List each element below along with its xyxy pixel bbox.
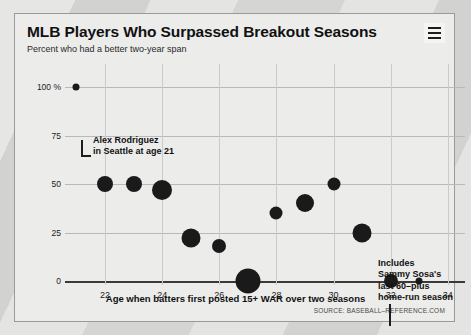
y-axis-tick-label: 50 [1, 179, 61, 189]
data-point[interactable] [181, 229, 200, 248]
page-title: MLB Players Who Surpassed Breakout Seaso… [27, 23, 442, 40]
y-axis-tick-label: 75 [1, 131, 61, 141]
scatter-chart: 0255075100 %22242628303234 Age when batt… [15, 64, 456, 323]
chart-card: MLB Players Who Surpassed Breakout Seaso… [14, 13, 455, 322]
annotation-alex-rodriguez: Alex Rodriguez in Seattle at age 21 [93, 135, 174, 158]
annotation-sammy-sosa: Includes Sammy Sosa's last 60–plus home-… [378, 258, 453, 303]
data-point[interactable] [97, 176, 113, 192]
menu-bar-1 [428, 27, 441, 30]
data-point[interactable] [235, 269, 260, 294]
data-point[interactable] [126, 176, 142, 192]
source-note: SOURCE: BASEBALL–REFERENCE.COM [314, 307, 445, 314]
annotation-leader-alex-horizontal [81, 155, 91, 157]
y-axis-tick-label: 100 % [1, 82, 61, 92]
data-point[interactable] [327, 178, 340, 191]
gridline-x-28 [276, 64, 277, 285]
y-axis-tick-label: 25 [1, 228, 61, 238]
gridline-x-30 [334, 64, 335, 285]
card-header: MLB Players Who Surpassed Breakout Seaso… [15, 14, 454, 55]
data-point[interactable] [73, 84, 80, 91]
y-axis-tick-label: 0 [1, 276, 61, 286]
plot-area: 0255075100 %22242628303234 [65, 87, 465, 281]
gridline-x-24 [162, 64, 163, 285]
menu-bar-3 [428, 37, 441, 40]
gridline-x-22 [105, 64, 106, 285]
gridline-x-34 [448, 64, 449, 285]
gridline-x-32 [391, 64, 392, 285]
data-point[interactable] [212, 239, 226, 253]
gridline-y-100 [65, 87, 465, 88]
menu-bar-2 [428, 32, 441, 35]
data-point[interactable] [152, 180, 172, 200]
chart-subtitle: Percent who had a better two-year span [27, 45, 442, 55]
hamburger-menu-icon[interactable] [424, 23, 445, 43]
data-point[interactable] [296, 194, 314, 212]
data-point[interactable] [353, 223, 372, 242]
annotation-leader-sosa-vertical [389, 304, 391, 326]
gridline-y-25 [65, 233, 465, 234]
data-point[interactable] [270, 207, 283, 220]
